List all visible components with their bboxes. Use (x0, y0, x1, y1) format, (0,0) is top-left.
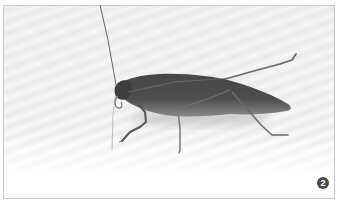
hind-leg-upper (222, 54, 296, 80)
figure-number-badge: 2 (317, 177, 329, 189)
katydid-photo (0, 0, 339, 206)
antenna-long (100, 5, 116, 85)
